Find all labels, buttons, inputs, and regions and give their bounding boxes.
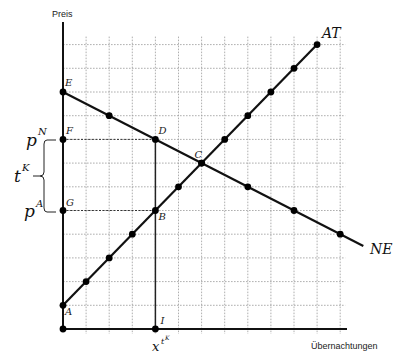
curve-dot-ne <box>337 231 344 238</box>
point-label-g: G <box>66 197 74 208</box>
point-label-d: D <box>157 125 166 136</box>
marker-dot <box>60 326 67 333</box>
svg-text:x: x <box>152 339 160 354</box>
curve-dot-at <box>221 136 228 143</box>
curve-dot-at <box>314 41 321 48</box>
curves <box>63 45 363 306</box>
x-axis-label: Übernachtungen <box>311 341 378 351</box>
point-label-i: I <box>159 315 165 326</box>
svg-text:N: N <box>37 126 48 137</box>
curve-dot-ne <box>152 136 159 143</box>
x-t-k-label: x t K <box>152 334 170 354</box>
svg-text:p: p <box>26 130 37 150</box>
curve-dot-at <box>175 183 182 190</box>
curve-label-ne: NE <box>369 241 392 257</box>
curve-dot-ne <box>106 112 113 119</box>
svg-text:t: t <box>14 166 21 186</box>
p-a-label: p A <box>24 198 43 221</box>
point-label-c: C <box>195 149 203 160</box>
point-labels: ABCDEFGI <box>64 77 203 326</box>
curve-dot-ne <box>291 207 298 214</box>
curve-dot-ne <box>198 160 205 167</box>
curve-dot-ne <box>60 89 67 96</box>
point-label-e: E <box>64 77 73 88</box>
t-k-label: t K <box>14 162 30 186</box>
point-label-f: F <box>65 125 74 136</box>
svg-text:A: A <box>35 198 43 209</box>
marker-dot <box>60 136 67 143</box>
curve-label-at: AT <box>320 25 342 41</box>
curve-at <box>63 45 317 306</box>
marker-dot <box>152 326 159 333</box>
curve-dot-at <box>291 65 298 72</box>
grid <box>63 37 345 334</box>
p-n-label: p N <box>26 126 48 150</box>
axes: Preis Übernachtungen <box>52 9 378 351</box>
curve-dot-at <box>106 255 113 262</box>
svg-text:p: p <box>24 201 35 221</box>
point-label-a: A <box>64 306 72 317</box>
point-label-b: B <box>157 211 165 222</box>
curve-dot-at <box>244 112 251 119</box>
svg-text:K: K <box>164 334 170 341</box>
curve-dot-at <box>268 89 275 96</box>
curve-dot-at <box>83 278 90 285</box>
y-axis-label: Preis <box>52 9 73 19</box>
curve-dot-at <box>129 231 136 238</box>
economics-diagram: Preis Übernachtungen ABCDEFGI AT NE p N … <box>0 0 404 362</box>
marker-dot <box>60 207 67 214</box>
svg-text:K: K <box>21 162 30 173</box>
curve-dot-ne <box>244 183 251 190</box>
